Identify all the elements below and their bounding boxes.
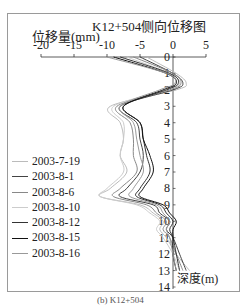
- legend-item: 2003-8-16: [12, 246, 80, 261]
- figure-caption: (b) K12+504: [97, 295, 144, 305]
- legend-swatch-icon: [12, 176, 28, 177]
- legend-label: 2003-8-10: [32, 200, 80, 215]
- x-tick-label: -20: [33, 38, 49, 52]
- x-tick-label: 5: [203, 38, 209, 52]
- y-tick-label: 7: [164, 165, 170, 179]
- legend-label: 2003-8-6: [32, 185, 74, 200]
- legend-swatch-icon: [12, 222, 28, 223]
- legend-item: 2003-8-6: [12, 185, 80, 200]
- y-axis-label: 深度(m): [177, 271, 218, 286]
- x-tick-label: -10: [99, 38, 115, 52]
- legend-item: 2003-8-12: [12, 215, 80, 230]
- legend-label: 2003-7-19: [32, 154, 80, 169]
- legend: 2003-7-192003-8-12003-8-62003-8-102003-8…: [12, 154, 80, 261]
- legend-item: 2003-8-10: [12, 200, 80, 215]
- legend-label: 2003-8-15: [32, 230, 80, 245]
- x-tick-label: -15: [66, 38, 82, 52]
- legend-swatch-icon: [12, 253, 28, 254]
- y-tick-label: 6: [164, 149, 170, 163]
- legend-item: 2003-8-15: [12, 230, 80, 245]
- legend-item: 2003-8-1: [12, 169, 80, 184]
- legend-swatch-icon: [12, 161, 28, 162]
- legend-swatch-icon: [12, 238, 28, 239]
- legend-swatch-icon: [12, 192, 28, 193]
- y-tick-label: 14: [158, 280, 170, 294]
- legend-label: 2003-8-1: [32, 169, 74, 184]
- y-tick-label: 4: [164, 116, 170, 130]
- legend-label: 2003-8-12: [32, 215, 80, 230]
- legend-label: 2003-8-16: [32, 246, 80, 261]
- y-tick-label: 8: [164, 181, 170, 195]
- y-tick-label: 13: [158, 264, 170, 278]
- legend-swatch-icon: [12, 207, 28, 208]
- x-tick-label: -5: [135, 38, 145, 52]
- x-tick-label: 0: [170, 38, 176, 52]
- y-tick-label: 0: [164, 50, 170, 64]
- y-tick-label: 5: [164, 132, 170, 146]
- legend-item: 2003-7-19: [12, 154, 80, 169]
- y-tick-label: 12: [158, 247, 170, 261]
- y-tick-label: 3: [164, 99, 170, 113]
